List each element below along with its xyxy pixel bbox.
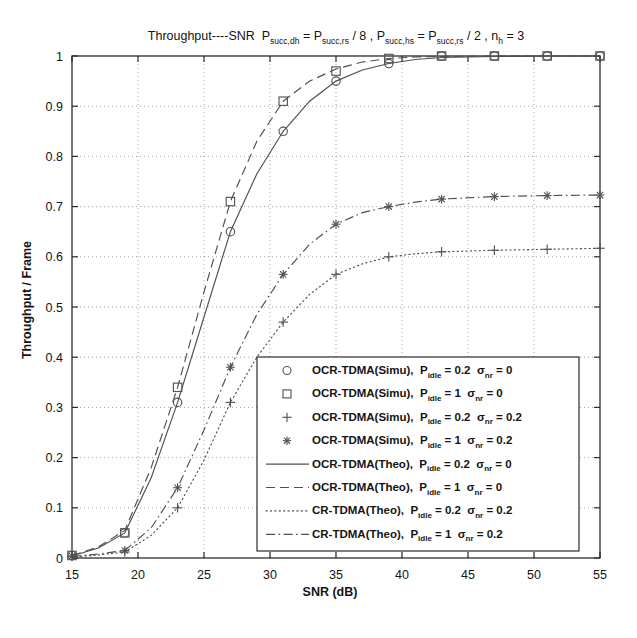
x-tick-label: 15 bbox=[65, 568, 79, 582]
figure-container: Throughput----SNR Psucc,dh = Psucc,rs / … bbox=[0, 0, 637, 638]
x-tick-label: 55 bbox=[593, 568, 607, 582]
x-tick-label: 30 bbox=[263, 568, 277, 582]
y-tick-label: 0.3 bbox=[46, 401, 63, 415]
y-tick-label: 0.7 bbox=[46, 200, 63, 214]
chart-legend: OCR-TDMA(Simu), Pidle = 0.2 σnr = 0OCR-T… bbox=[257, 357, 579, 551]
y-tick-label: 1 bbox=[56, 50, 63, 64]
x-tick-label: 45 bbox=[461, 568, 475, 582]
y-tick-label: 0.5 bbox=[46, 301, 63, 315]
y-tick-label: 0.4 bbox=[46, 351, 63, 365]
x-tick-label: 20 bbox=[131, 568, 145, 582]
throughput-snr-chart: Throughput----SNR Psucc,dh = Psucc,rs / … bbox=[0, 0, 637, 638]
x-tick-label: 25 bbox=[197, 568, 211, 582]
legend-marker-asterisk-icon bbox=[283, 437, 291, 445]
x-tick-label: 40 bbox=[395, 568, 409, 582]
legend-box bbox=[257, 357, 579, 551]
y-axis-label: Throughput / Frame bbox=[20, 241, 34, 359]
x-axis-label: SNR (dB) bbox=[303, 585, 358, 599]
y-tick-label: 0.1 bbox=[46, 501, 63, 515]
x-tick-label: 50 bbox=[527, 568, 541, 582]
y-tick-label: 0.2 bbox=[46, 451, 63, 465]
y-tick-label: 0.8 bbox=[46, 150, 63, 164]
y-tick-label: 0.6 bbox=[46, 250, 63, 264]
x-tick-label: 35 bbox=[329, 568, 343, 582]
y-tick-label: 0.9 bbox=[46, 100, 63, 114]
y-tick-label: 0 bbox=[56, 552, 63, 566]
